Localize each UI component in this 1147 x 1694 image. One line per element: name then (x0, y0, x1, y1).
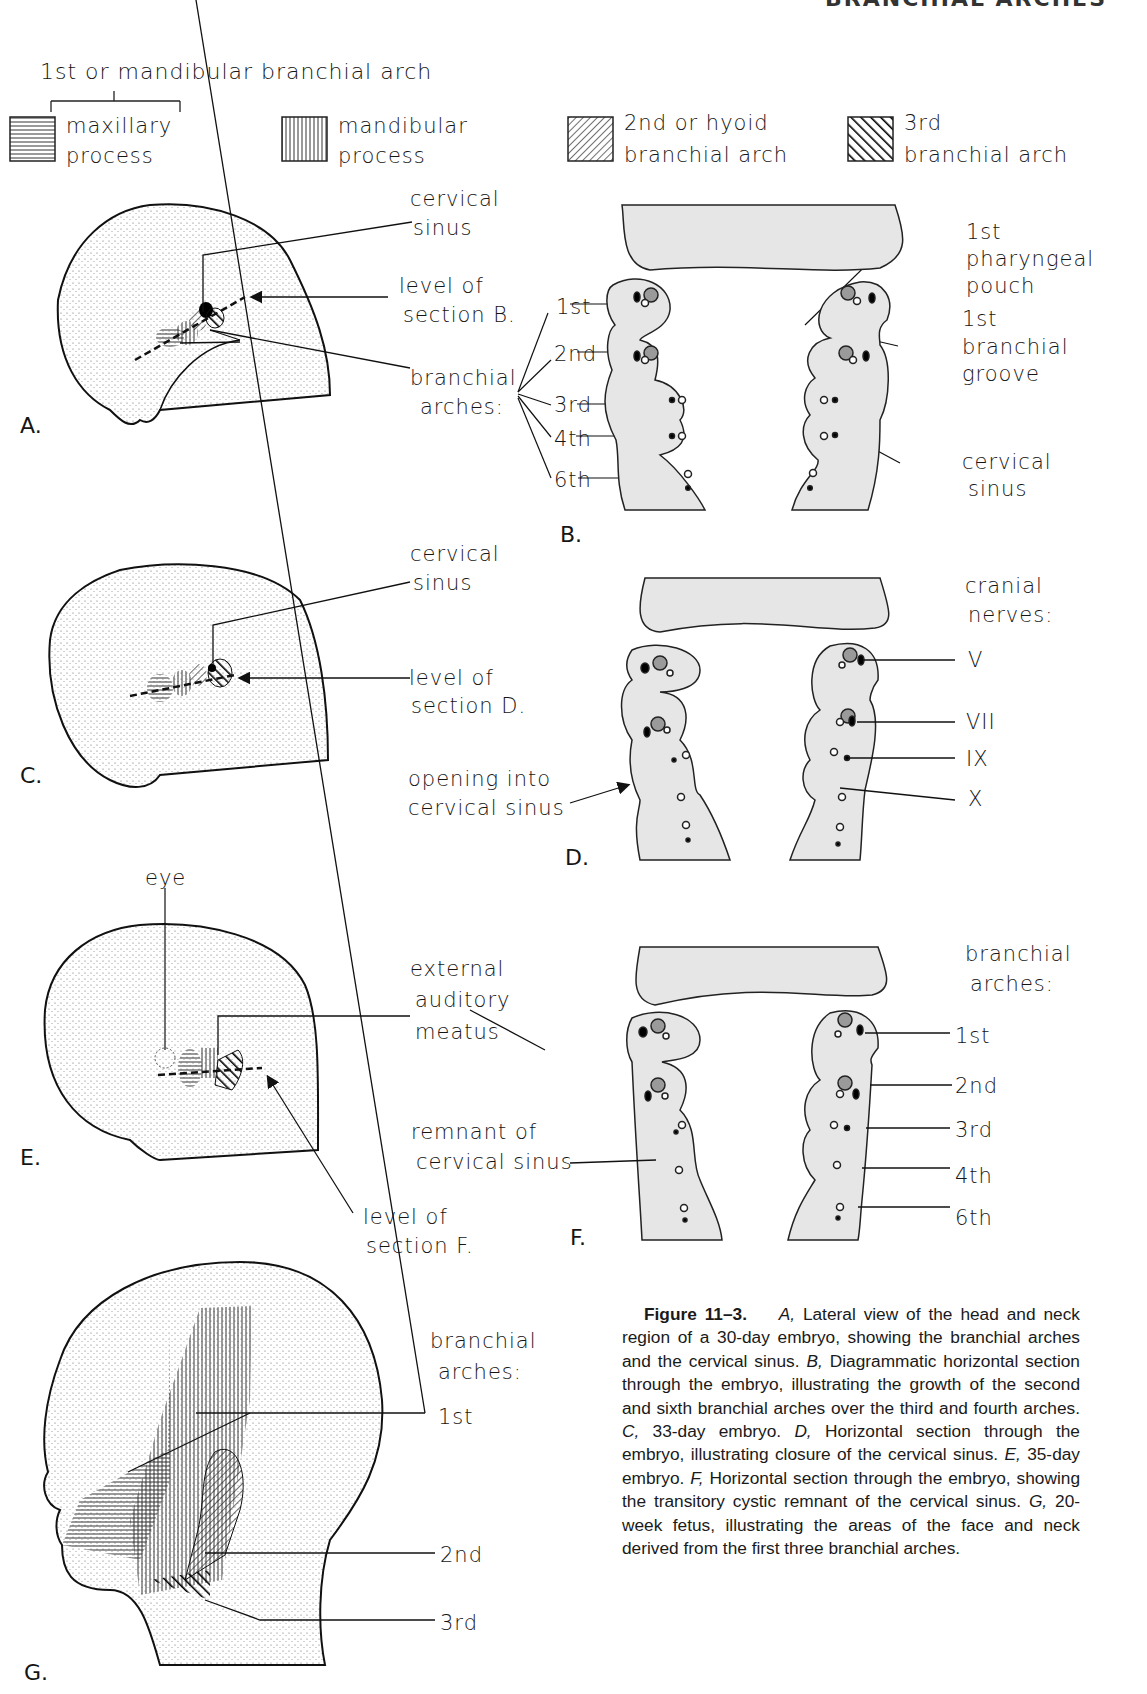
d-nerves-title-1: cranial (965, 572, 1043, 600)
f-arches-title-2: arches: (970, 970, 1054, 998)
b-pouch-3: pouch (966, 272, 1035, 300)
e-level-2: section F. (366, 1232, 474, 1260)
f-leaders (470, 1010, 952, 1207)
g-arch-3rd: 3rd (440, 1609, 478, 1637)
legend-mandibular-line1: mandibular (338, 112, 468, 140)
b-sinus-2: sinus (968, 475, 1027, 503)
a-level-2: section B. (403, 301, 516, 329)
d-nerve-vii: VII (966, 708, 996, 736)
b-arch-6th: 6th (554, 466, 592, 494)
legend-hyoid-line1: 2nd or hyoid (624, 109, 769, 137)
legend-mandibular-line2: process (338, 142, 426, 170)
panel-letter-c: C. (20, 763, 42, 788)
f-arch-6th: 6th (955, 1204, 993, 1232)
d-opening-2: cervical sinus (408, 794, 565, 822)
legend-third-line2: branchial arch (904, 141, 1068, 169)
b-pouch-2: pharyngeal (966, 245, 1094, 273)
panel-letter-a: A. (20, 413, 42, 438)
g-arch-2nd: 2nd (440, 1541, 483, 1569)
f-remnant-2: cervical sinus (416, 1148, 573, 1176)
legend-hyoid-line2: branchial arch (624, 141, 788, 169)
f-remnant-1: remnant of (411, 1118, 537, 1146)
a-cervical-sinus-1: cervical (410, 185, 500, 213)
panel-letter-f: F. (570, 1225, 586, 1250)
b-sinus-1: cervical (962, 448, 1052, 476)
section-d (622, 578, 889, 860)
legend-maxillary-line2: process (66, 142, 154, 170)
c-level-2: section D. (411, 692, 526, 720)
panel-letter-e: E. (20, 1145, 41, 1170)
b-groove-3: groove (962, 360, 1040, 388)
section-b (605, 205, 903, 510)
g-arches-title-1: branchial (430, 1327, 537, 1355)
figure-label: Figure 11–3. (644, 1304, 747, 1324)
section-f (627, 947, 887, 1240)
c-cervical-sinus-2: sinus (413, 569, 472, 597)
f-arches-title-1: branchial (965, 940, 1072, 968)
panel-letter-b: B. (560, 522, 582, 547)
a-level-1: level of (399, 272, 484, 300)
e-meatus-3: meatus (415, 1018, 500, 1046)
b-arch-4th: 4th (554, 425, 592, 453)
e-meatus-1: external (410, 955, 504, 983)
d-nerve-x: X (968, 785, 983, 813)
a-cervical-sinus-2: sinus (413, 214, 472, 242)
c-cervical-sinus-1: cervical (410, 540, 500, 568)
b-arch-3rd: 3rd (554, 391, 592, 419)
f-arch-2nd: 2nd (955, 1072, 998, 1100)
d-nerve-v: V (968, 646, 983, 674)
g-arches-title-2: arches: (438, 1358, 522, 1386)
f-arch-1st: 1st (955, 1022, 991, 1050)
d-opening-1: opening into (408, 765, 551, 793)
d-nerves-title-2: nerves: (968, 601, 1053, 629)
d-nerve-ix: IX (966, 745, 989, 773)
b-arch-1st: 1st (556, 293, 592, 321)
panel-letter-g: G. (24, 1660, 48, 1685)
f-arch-3rd: 3rd (955, 1116, 993, 1144)
e-meatus-2: auditory (415, 986, 511, 1014)
panel-letter-d: D. (565, 845, 589, 870)
a-arches-1: branchial (410, 364, 517, 392)
legend-bracket (51, 91, 180, 112)
c-level-1: level of (409, 664, 494, 692)
a-arches-2: arches: (420, 393, 504, 421)
b-groove-1: 1st (962, 305, 998, 333)
e-eye: eye (145, 864, 186, 892)
figure-caption: Figure 11–3. A, Lateral view of the head… (622, 1303, 1080, 1560)
embryo-e (45, 888, 410, 1213)
b-arch-2nd: 2nd (554, 340, 597, 368)
e-level-1: level of (363, 1203, 448, 1231)
b-pouch-1: 1st (966, 218, 1002, 246)
f-arch-4th: 4th (955, 1162, 993, 1190)
legend-third-line1: 3rd (904, 109, 942, 137)
g-arch-1st: 1st (438, 1403, 474, 1431)
b-groove-2: branchial (962, 333, 1069, 361)
embryo-c (49, 564, 410, 787)
legend-maxillary-line1: maxillary (66, 112, 172, 140)
legend-group-title: 1st or mandibular branchial arch (40, 58, 432, 86)
